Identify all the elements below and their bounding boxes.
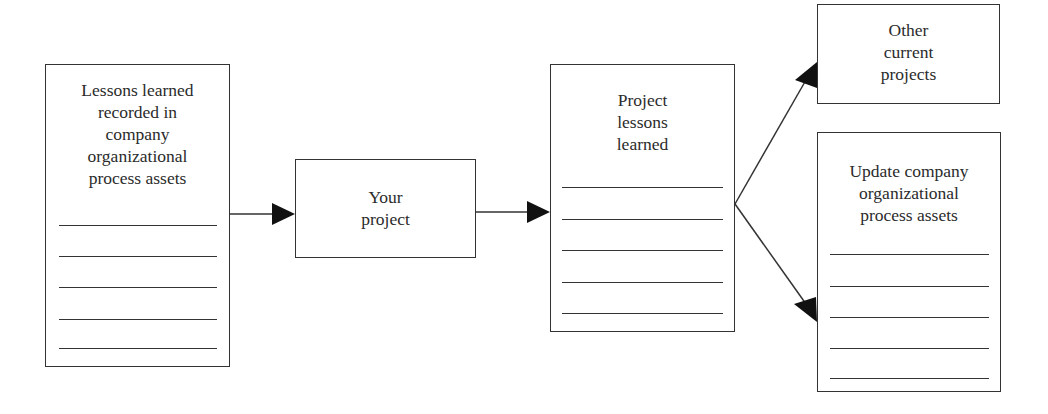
arrowhead-icon — [794, 297, 817, 322]
arrowhead-icon — [795, 62, 817, 88]
arrowhead-icon — [527, 201, 550, 223]
edge-lessons-to-update-assets — [735, 204, 806, 304]
edge-lessons-to-other-projects — [735, 80, 806, 204]
arrowhead-icon — [272, 203, 295, 225]
connectors — [0, 0, 1048, 414]
